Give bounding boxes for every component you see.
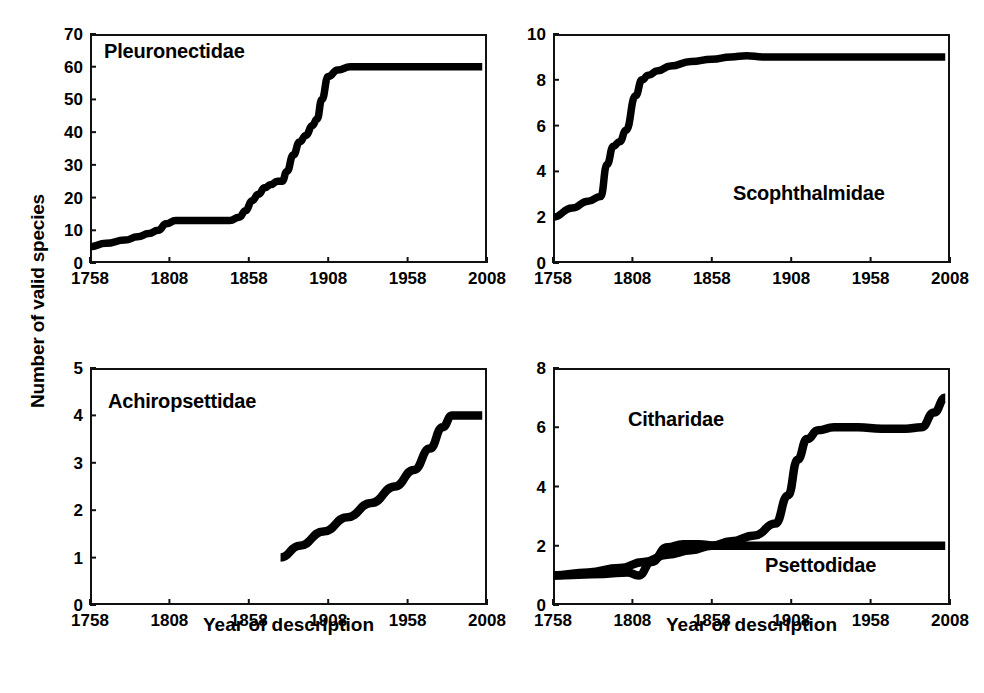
- y-tick-label: 70: [64, 26, 83, 43]
- panel-pleuronectidae: Pleuronectidae 0102030405060701758180818…: [90, 34, 487, 263]
- y-axis-title: Number of valid species: [27, 151, 49, 451]
- x-tick-label: 1958: [389, 270, 427, 287]
- x-tick-label: 2008: [468, 270, 506, 287]
- y-tick-label: 50: [64, 91, 83, 108]
- y-tick-label: 2: [74, 502, 83, 519]
- y-tick-label: 60: [64, 58, 83, 75]
- y-tick-label: 2: [537, 537, 546, 554]
- figure-flatfish-species-accumulation: Number of valid species Pleuronectidae 0…: [0, 0, 984, 693]
- series-label-citharidae: Citharidae: [628, 408, 724, 431]
- x-tick-label: 1958: [852, 270, 890, 287]
- y-tick-label: 10: [64, 222, 83, 239]
- y-tick-label: 8: [537, 360, 546, 377]
- x-tick-label: 1908: [309, 270, 347, 287]
- series-label-achiropsettidae: Achiropsettidae: [108, 390, 256, 413]
- x-tick-label: 1758: [534, 270, 572, 287]
- curve-pleuronectidae: [90, 67, 482, 247]
- y-tick-label: 6: [537, 117, 546, 134]
- x-tick-label: 1758: [71, 270, 109, 287]
- y-tick-label: 6: [537, 419, 546, 436]
- y-tick-label: 8: [537, 71, 546, 88]
- y-tick-label: 4: [74, 407, 83, 424]
- y-tick-label: 2: [537, 209, 546, 226]
- y-tick-label: 30: [64, 156, 83, 173]
- y-tick-label: 40: [64, 124, 83, 141]
- curve-achiropsettidae: [281, 415, 483, 557]
- plot-area-pleuronectidae: [90, 34, 487, 263]
- x-tick-label: 1808: [613, 270, 651, 287]
- y-tick-label: 10: [527, 26, 546, 43]
- y-tick-label: 1: [74, 549, 83, 566]
- y-tick-label: 20: [64, 189, 83, 206]
- series-label-scophthalmidae: Scophthalmidae: [733, 182, 885, 205]
- panel-achiropsettidae: Achiropsettidae 012345175818081858190819…: [90, 368, 487, 605]
- y-tick-label: 4: [537, 163, 546, 180]
- x-axis-title-left: Year of description: [90, 614, 487, 636]
- plot-area-scophthalmidae: [553, 34, 950, 263]
- series-label-psettodidae: Psettodidae: [765, 554, 876, 577]
- y-tick-label: 3: [74, 454, 83, 471]
- series-label-pleuronectidae: Pleuronectidae: [104, 40, 245, 63]
- y-tick-label: 5: [74, 360, 83, 377]
- x-tick-label: 2008: [931, 270, 969, 287]
- x-tick-label: 1858: [693, 270, 731, 287]
- x-tick-label: 1858: [230, 270, 268, 287]
- plot-area-citharidae-psettodidae: [553, 368, 950, 605]
- panel-scophthalmidae: Scophthalmidae 0246810175818081858190819…: [553, 34, 950, 263]
- y-tick-label: 4: [537, 478, 546, 495]
- curve-psettodidae: [553, 544, 945, 575]
- x-axis-title-right: Year of description: [553, 614, 950, 636]
- x-tick-label: 1808: [150, 270, 188, 287]
- x-tick-label: 1908: [772, 270, 810, 287]
- panel-citharidae-psettodidae: Citharidae Psettodidae 02468175818081858…: [553, 368, 950, 605]
